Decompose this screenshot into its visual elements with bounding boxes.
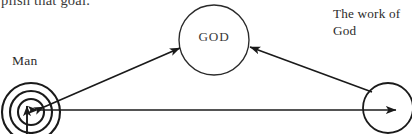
man-ring-middle bbox=[10, 91, 52, 133]
diagram-page: plish that goal. Man GOD The work of God bbox=[0, 0, 412, 134]
arrow-man-god bbox=[44, 48, 180, 107]
label-work-of-god: The work of God bbox=[333, 6, 400, 40]
arrow-work-god bbox=[250, 47, 372, 92]
cropped-body-text: plish that goal. bbox=[1, 0, 90, 10]
node-work-circle bbox=[363, 83, 412, 133]
label-man: Man bbox=[12, 52, 37, 69]
node-man-circles bbox=[2, 83, 60, 134]
label-god: GOD bbox=[190, 29, 238, 46]
man-ring-inner bbox=[18, 99, 44, 125]
